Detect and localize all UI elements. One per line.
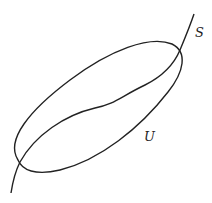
diagram-canvas: S U <box>0 0 212 203</box>
region-u-label: U <box>144 129 156 144</box>
diagram-svg: S U <box>0 0 212 203</box>
curve-s <box>11 14 194 193</box>
curve-s-label: S <box>195 25 204 40</box>
